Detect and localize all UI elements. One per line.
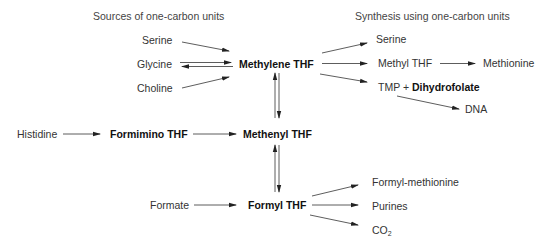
arrow-formyl-to-formyl-methionine <box>312 185 358 196</box>
co2-base: CO <box>372 224 388 236</box>
arrow-formyl-to-co2 <box>310 215 358 225</box>
product-dna: DNA <box>465 103 487 115</box>
node-methylene-thf: Methylene THF <box>239 58 314 70</box>
source-formate: Formate <box>150 199 189 211</box>
product-serine: Serine <box>376 33 406 45</box>
co2-subscript: 2 <box>388 230 392 237</box>
product-tmp-dihydrofolate: TMP + Dihydrofolate <box>378 81 480 93</box>
product-purines: Purines <box>372 200 408 212</box>
source-histidine: Histidine <box>17 128 57 140</box>
arrow-tmp-to-dna <box>397 96 459 109</box>
sources-title: Sources of one-carbon units <box>93 10 224 22</box>
node-methyl-thf: Methyl THF <box>378 57 432 69</box>
node-formyl-thf: Formyl THF <box>248 199 306 211</box>
arrow-serine-to-methylene <box>182 42 229 51</box>
source-serine: Serine <box>142 34 172 46</box>
arrow-methylene-to-serine <box>322 43 367 53</box>
source-choline: Choline <box>137 82 173 94</box>
product-methionine: Methionine <box>483 57 534 69</box>
source-glycine: Glycine <box>137 58 172 70</box>
product-tmp: TMP + <box>378 81 409 93</box>
synthesis-title: Synthesis using one-carbon units <box>355 10 510 22</box>
node-formimino-thf: Formimino THF <box>110 128 188 140</box>
arrow-choline-to-methylene <box>182 77 229 88</box>
arrow-methylene-to-tmp <box>320 74 367 82</box>
node-methenyl-thf: Methenyl THF <box>243 128 312 140</box>
product-co2: CO2 <box>372 224 392 236</box>
product-formyl-methionine: Formyl-methionine <box>372 176 459 188</box>
node-dihydrofolate: Dihydrofolate <box>412 81 480 93</box>
